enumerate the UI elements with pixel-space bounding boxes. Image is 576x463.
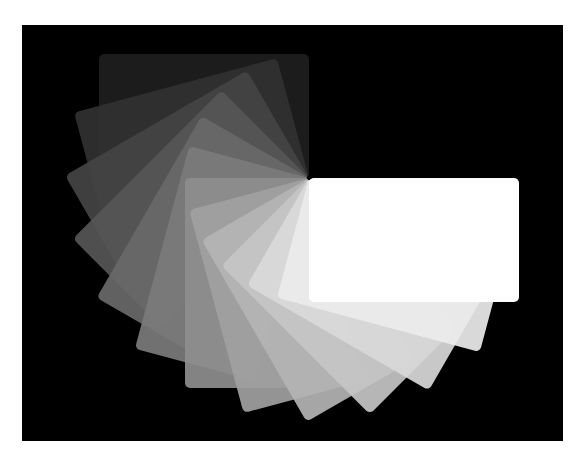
black-frame (22, 25, 563, 441)
fan-card (309, 178, 519, 302)
